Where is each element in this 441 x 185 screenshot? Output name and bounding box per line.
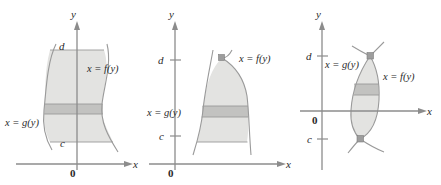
x-axis-arrow-3 [418, 108, 427, 114]
right-curve-label-1: x = f(y) [86, 63, 119, 75]
origin-label-2: 0 [168, 167, 174, 179]
x-axis-arrow-1 [124, 161, 133, 167]
y-axis-label-1: y [70, 8, 76, 20]
x-axis-label-3: x [426, 105, 432, 117]
left-curve-label-1: x = g(y) [4, 117, 39, 129]
y-axis-arrow-3 [319, 21, 325, 30]
intersection-dot-top-3 [367, 53, 374, 60]
x-axis-label-2: x [285, 158, 291, 170]
x-axis-label-1: x [132, 158, 138, 170]
figure-row: y x 0 d c x = f(y) x = g(y) y [0, 0, 441, 185]
upper-bound-label-2: d [158, 54, 164, 66]
intersection-dot-top-2 [219, 55, 225, 61]
y-axis-arrow-2 [172, 21, 178, 30]
y-axis-arrow-1 [74, 21, 80, 30]
representative-strip-2 [202, 106, 248, 117]
y-axis-label-3: y [315, 8, 321, 20]
lower-bound-label-1: c [60, 137, 65, 149]
upper-bound-label-1: d [59, 40, 65, 52]
lower-bound-label-3: c [307, 133, 312, 145]
panel-curves-meet-at-top: y x 0 d c x = f(y) x = g(y) [143, 0, 295, 185]
representative-strip-3 [354, 84, 379, 95]
panel-curves-do-not-intersect: y x 0 d c x = f(y) x = g(y) [0, 0, 147, 185]
panel-curves-meet-at-both-ends: y x 0 d c x = g(y) x = f(y) [292, 0, 441, 185]
right-curve-label-2: x = f(y) [238, 53, 271, 65]
lower-bound-label-2: c [159, 130, 164, 142]
left-curve-label-2: x = g(y) [146, 107, 181, 119]
intersection-dot-bottom-3 [357, 136, 364, 143]
origin-label-1: 0 [70, 167, 76, 179]
representative-strip-1 [44, 104, 103, 114]
left-curve-label-3: x = g(y) [324, 59, 359, 71]
upper-bound-label-3: d [306, 50, 312, 62]
y-axis-label-2: y [168, 8, 174, 20]
x-axis-arrow-2 [277, 161, 286, 167]
origin-label-3: 0 [312, 114, 318, 126]
right-curve-label-3: x = f(y) [382, 71, 415, 83]
